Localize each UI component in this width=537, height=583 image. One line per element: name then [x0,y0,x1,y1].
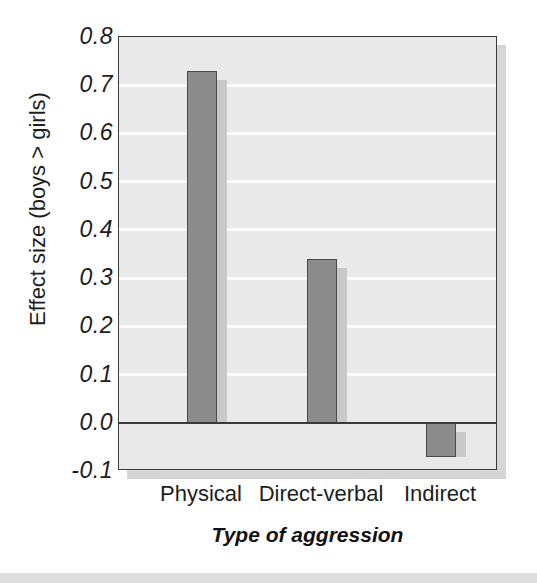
plot-area [118,36,497,470]
x-tick-label: Indirect [404,481,476,507]
y-tick-label: 0.0 [53,408,113,435]
y-tick-label: 0.2 [53,312,113,339]
x-axis-title: Type of aggression [118,523,497,547]
y-tick-label: 0.8 [53,23,113,50]
gridline [119,228,496,231]
bar [426,423,456,457]
y-tick-label: 0.7 [53,71,113,98]
y-tick-label: -0.1 [53,457,113,484]
chart-figure: 0.80.70.60.50.40.30.20.10.0-0.1 Effect s… [0,0,537,583]
y-tick-label: 0.3 [53,264,113,291]
y-axis-title: Effect size (boys > girls) [25,29,51,389]
y-axis-ticks: 0.80.70.60.50.40.30.20.10.0-0.1 [45,36,113,470]
y-tick-label: 0.6 [53,119,113,146]
y-tick-label: 0.5 [53,167,113,194]
gridline [119,180,496,183]
gridline [119,132,496,135]
bar [187,71,217,423]
y-tick-label: 0.4 [53,215,113,242]
bar [307,259,337,423]
plot-inner [119,37,496,469]
x-axis-ticks: PhysicalDirect-verbalIndirect [118,481,497,515]
gridline [119,84,496,87]
zero-baseline [119,422,496,424]
x-tick-label: Physical [160,481,242,507]
x-tick-label: Direct-verbal [259,481,384,507]
page-bottom-strip [0,573,537,583]
y-tick-label: 0.1 [53,360,113,387]
